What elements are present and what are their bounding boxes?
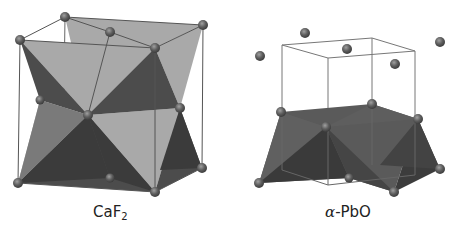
caf2-structure: [13, 12, 208, 197]
caf2-label-subscript: 2: [121, 211, 127, 222]
caf2-label: CaF2: [93, 203, 128, 222]
pbo-label: α-PbO: [325, 203, 371, 221]
crystal-structures-figure: [0, 0, 460, 235]
caf2-label-formula: CaF: [93, 203, 121, 221]
pbo-label-alpha: α: [325, 203, 335, 221]
pbo-structure: [254, 28, 445, 197]
pbo-label-formula: -PbO: [335, 203, 371, 221]
